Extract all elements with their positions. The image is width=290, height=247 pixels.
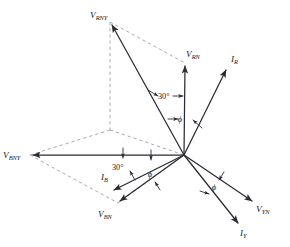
label-v-yn-subscript: YN [262,208,271,215]
angle-arrow-phi-y-upper [219,172,224,180]
construction-line-left-upper [30,130,110,155]
phasor-diagram-canvas: VRNY VBNY VRN IR VYN IY VBN IB 30° 30° ϕ… [0,0,290,247]
label-v-rn-subscript: RN [191,53,201,60]
label-phi-r: ϕ [178,114,183,124]
label-v-yn: VYN [256,204,270,215]
angle-arrow-phi-y-lower [200,191,209,194]
vector-i-r [184,70,226,155]
angle-arrow-phi-b-lower [155,182,160,190]
label-v-rny-subscript: RNY [95,14,109,21]
vector-v-yn [184,155,252,201]
label-v-rny: VRNY [90,10,109,21]
label-i-r: IR [230,54,238,65]
label-v-bny-subscript: BNY [9,154,22,161]
label-angle-30-top: 30° [158,92,169,101]
vector-labels-group: VRNY VBNY VRN IR VYN IY VBN IB [3,10,270,239]
label-angle-30-left: 30° [112,163,123,172]
label-v-bny: VBNY [3,150,22,161]
label-v-rn: VRN [186,49,201,60]
label-v-bn-subscript: BN [104,213,113,220]
label-i-r-subscript: R [233,58,238,65]
label-phi-y: ϕ [212,182,217,192]
phasor-vectors-group [33,25,252,223]
vector-v-rn [184,66,185,155]
label-i-y-subscript: Y [243,232,248,239]
label-v-bn: VBN [98,209,113,220]
label-i-y: IY [239,228,248,239]
label-phi-b: ϕ [148,169,153,179]
label-i-b-subscript: B [104,176,108,183]
phasor-diagram-figure: VRNY VBNY VRN IR VYN IY VBN IB 30° 30° ϕ… [0,0,290,247]
label-i-b: IB [100,172,108,183]
angle-arrow-30-left-lower [130,171,135,180]
